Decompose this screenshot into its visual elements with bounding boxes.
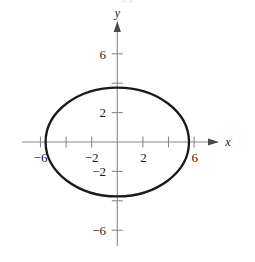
y-tick-label--6: −6 <box>92 223 106 238</box>
x-tick-label--2: −2 <box>85 150 99 165</box>
x-tick-label-2: 2 <box>140 150 147 165</box>
ellipse-plot: −6 −2 2 6 6 2 −2 −6 x y <box>0 0 255 262</box>
x-tick-label--6: −6 <box>34 150 48 165</box>
y-axis-group <box>112 21 123 246</box>
y-tick-label-2: 2 <box>100 105 107 120</box>
y-axis-label: y <box>114 6 121 20</box>
y-tick-label-6: 6 <box>100 47 107 62</box>
x-tick-label-6: 6 <box>192 150 199 165</box>
x-axis-label: x <box>224 135 231 149</box>
y-axis-arrowhead <box>114 21 121 32</box>
figure-root: 2 2 <box>0 0 255 262</box>
y-tick-label--2: −2 <box>92 164 106 179</box>
x-axis-arrowhead <box>208 138 219 145</box>
